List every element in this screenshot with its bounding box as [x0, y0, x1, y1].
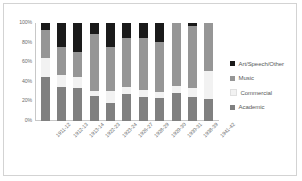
- bar-segment[interactable]: [57, 87, 66, 121]
- y-axis-tick-label: 20%: [22, 99, 32, 104]
- chart-container: 0%20%40%60%80%100% 1911-121912-131913-14…: [3, 3, 297, 176]
- legend-item[interactable]: Commercial: [230, 89, 302, 96]
- x-axis-tick-label: 1928-29: [154, 122, 171, 139]
- legend-label: Art/Speech/Other: [239, 61, 285, 67]
- bar-stack[interactable]: [188, 23, 197, 121]
- bar-segment[interactable]: [57, 47, 66, 75]
- x-axis-tick-label: 1938-39: [203, 122, 220, 139]
- y-axis-tick-label: 60%: [22, 60, 32, 65]
- bar-segment[interactable]: [57, 75, 66, 87]
- x-axis-tick-label: 1911-12: [55, 122, 71, 138]
- bar-segment[interactable]: [139, 38, 148, 90]
- x-axis-tick-label: 1926-27: [137, 122, 154, 139]
- bar-segment[interactable]: [73, 23, 82, 52]
- bar-segment[interactable]: [73, 52, 82, 77]
- bar-segment[interactable]: [90, 34, 99, 91]
- bar-stack[interactable]: [155, 23, 164, 121]
- bar-segment[interactable]: [122, 38, 131, 87]
- bar-segment[interactable]: [172, 93, 181, 121]
- plot-area: [35, 23, 219, 121]
- bar-segment[interactable]: [204, 23, 213, 71]
- bar-segment[interactable]: [188, 97, 197, 121]
- bar-segment[interactable]: [122, 87, 131, 94]
- bar-stack[interactable]: [57, 23, 66, 121]
- bar-segment[interactable]: [139, 23, 148, 38]
- chart-legend: Art/Speech/OtherMusicCommercialAcademic: [230, 60, 302, 118]
- bar-stack[interactable]: [41, 23, 50, 121]
- legend-swatch-icon: [230, 61, 235, 66]
- y-axis: 0%20%40%60%80%100%: [7, 23, 34, 121]
- bar-segment[interactable]: [155, 92, 164, 99]
- bar-segment[interactable]: [122, 23, 131, 38]
- x-axis-tick-label: 1913-14: [88, 122, 105, 139]
- bar-segment[interactable]: [188, 26, 197, 88]
- bar-stack[interactable]: [73, 23, 82, 121]
- bar-segment[interactable]: [106, 47, 115, 91]
- bar-segment[interactable]: [155, 42, 164, 92]
- bar-segment[interactable]: [90, 23, 99, 34]
- x-axis-tick-label: 1922-23: [105, 122, 122, 139]
- legend-label: Academic: [239, 104, 265, 110]
- legend-label: Music: [239, 75, 254, 81]
- legend-label: Commercial: [241, 90, 273, 96]
- bar-segment[interactable]: [41, 30, 50, 58]
- bar-segment[interactable]: [41, 77, 50, 121]
- bar-segment[interactable]: [188, 88, 197, 98]
- legend-swatch-icon: [230, 76, 235, 81]
- y-axis-tick-label: 0%: [25, 118, 32, 123]
- bar-segment[interactable]: [41, 23, 50, 30]
- bar-segment[interactable]: [41, 58, 50, 77]
- y-axis-tick-label: 80%: [22, 40, 32, 45]
- bar-stack[interactable]: [90, 23, 99, 121]
- bar-segment[interactable]: [90, 96, 99, 121]
- bar-segment[interactable]: [106, 91, 115, 104]
- bar-segment[interactable]: [172, 86, 181, 93]
- bar-stack[interactable]: [139, 23, 148, 121]
- bar-segment[interactable]: [73, 88, 82, 121]
- bar-segment[interactable]: [204, 71, 213, 99]
- bar-stack[interactable]: [106, 23, 115, 121]
- y-axis-tick-label: 40%: [22, 79, 32, 84]
- bar-segment[interactable]: [204, 99, 213, 121]
- bar-segment[interactable]: [57, 23, 66, 47]
- bar-segment[interactable]: [73, 77, 82, 88]
- bar-segment[interactable]: [155, 23, 164, 42]
- bar-segment[interactable]: [106, 23, 115, 47]
- x-axis-tick-label: 1929-30: [170, 122, 187, 139]
- legend-swatch-icon: [230, 105, 235, 110]
- x-axis: 1911-121912-131913-141922-231923-241926-…: [35, 122, 219, 167]
- x-axis-tick-label: 1930-31: [186, 122, 203, 139]
- bar-segment[interactable]: [139, 90, 148, 98]
- x-axis-tick-label: 1912-13: [72, 122, 89, 139]
- bar-stack[interactable]: [204, 23, 213, 121]
- y-axis-tick-label: 100%: [19, 20, 32, 25]
- legend-item[interactable]: Art/Speech/Other: [230, 60, 302, 67]
- bar-segment[interactable]: [155, 98, 164, 121]
- bar-group: [35, 23, 219, 121]
- bar-segment[interactable]: [172, 23, 181, 86]
- legend-swatch-icon: [230, 89, 237, 96]
- bar-segment[interactable]: [122, 94, 131, 121]
- x-axis-tick-label: 1923-24: [121, 122, 138, 139]
- bar-segment[interactable]: [139, 97, 148, 121]
- bar-stack[interactable]: [122, 23, 131, 121]
- x-axis-tick-label: 1941-42: [219, 122, 236, 139]
- legend-item[interactable]: Academic: [230, 104, 302, 111]
- bar-stack[interactable]: [172, 23, 181, 121]
- bar-segment[interactable]: [106, 103, 115, 121]
- legend-item[interactable]: Music: [230, 75, 302, 82]
